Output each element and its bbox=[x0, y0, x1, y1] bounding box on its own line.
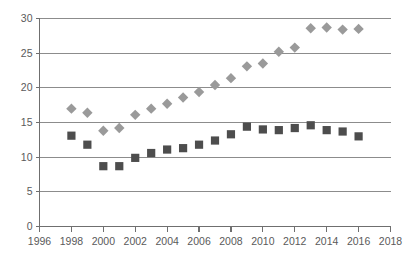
data-point bbox=[258, 58, 268, 68]
data-point bbox=[337, 24, 347, 34]
data-point bbox=[162, 99, 172, 109]
data-point bbox=[66, 103, 76, 113]
data-point bbox=[339, 127, 347, 135]
data-point bbox=[353, 24, 363, 34]
y-tick-label-0: 0 bbox=[27, 220, 33, 232]
x-tick-label-2000: 2000 bbox=[92, 235, 116, 247]
data-point bbox=[242, 61, 252, 71]
data-point bbox=[147, 149, 155, 157]
data-point bbox=[275, 126, 283, 134]
y-tick-label-30: 30 bbox=[21, 12, 33, 24]
series-diamond-series bbox=[66, 22, 364, 136]
x-tick-label-1996: 1996 bbox=[28, 235, 52, 247]
data-point bbox=[130, 110, 140, 120]
x-tick-label-2016: 2016 bbox=[347, 235, 371, 247]
data-point bbox=[321, 22, 331, 32]
y-tick-label-25: 25 bbox=[21, 47, 33, 59]
data-point bbox=[146, 103, 156, 113]
x-tick-label-2008: 2008 bbox=[219, 235, 243, 247]
x-tick-label-2012: 2012 bbox=[283, 235, 307, 247]
x-tick-label-2010: 2010 bbox=[251, 235, 275, 247]
data-point bbox=[291, 124, 299, 132]
data-point bbox=[195, 141, 203, 149]
data-point bbox=[179, 144, 187, 152]
data-point bbox=[99, 162, 107, 170]
data-point bbox=[211, 136, 219, 144]
x-tick-label-2002: 2002 bbox=[124, 235, 148, 247]
data-point bbox=[67, 132, 75, 140]
scatter-chart: 0510152025301996199820002002200420062008… bbox=[0, 0, 417, 261]
data-point bbox=[259, 125, 267, 133]
y-tick-label-20: 20 bbox=[21, 81, 33, 93]
data-point bbox=[178, 92, 188, 102]
data-point bbox=[163, 145, 171, 153]
x-tick-label-2014: 2014 bbox=[315, 235, 339, 247]
data-point bbox=[227, 130, 235, 138]
data-point bbox=[307, 121, 315, 129]
series-square-series bbox=[67, 121, 362, 170]
data-point bbox=[115, 162, 123, 170]
data-point bbox=[83, 141, 91, 149]
data-point bbox=[354, 132, 362, 140]
data-point bbox=[323, 126, 331, 134]
y-tick-label-10: 10 bbox=[21, 151, 33, 163]
y-tick-label-15: 15 bbox=[21, 116, 33, 128]
data-point bbox=[243, 123, 251, 131]
chart-canvas: 0510152025301996199820002002200420062008… bbox=[0, 0, 417, 261]
data-point bbox=[306, 23, 316, 33]
data-point bbox=[290, 42, 300, 52]
data-point bbox=[131, 154, 139, 162]
data-point bbox=[210, 80, 220, 90]
x-tick-label-2006: 2006 bbox=[187, 235, 211, 247]
data-point bbox=[226, 73, 236, 83]
data-point bbox=[114, 123, 124, 133]
y-tick-label-5: 5 bbox=[27, 185, 33, 197]
data-point bbox=[274, 47, 284, 57]
x-tick-label-2018: 2018 bbox=[379, 235, 403, 247]
data-point bbox=[98, 126, 108, 136]
x-tick-label-2004: 2004 bbox=[155, 235, 179, 247]
data-point bbox=[194, 87, 204, 97]
data-point bbox=[82, 108, 92, 118]
x-tick-label-1998: 1998 bbox=[60, 235, 84, 247]
